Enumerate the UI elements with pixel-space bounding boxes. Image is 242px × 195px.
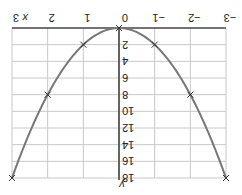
x-axis-label: x xyxy=(22,12,29,24)
y-tick-label: 10 xyxy=(122,105,134,117)
y-tick-label: 2 xyxy=(122,39,128,51)
y-tick-label: 16 xyxy=(122,155,134,167)
y-tick-label: 6 xyxy=(122,72,128,84)
y-tick-label: 12 xyxy=(122,122,134,134)
x-tick-label: 0 xyxy=(122,12,128,24)
y-axis-label: y xyxy=(118,179,126,191)
x-tick-label: −3 xyxy=(224,12,237,24)
parabola-chart: −3−2−1012324681012141618xy xyxy=(0,0,242,195)
chart-canvas: −3−2−1012324681012141618xy xyxy=(0,0,242,195)
y-tick-label: 4 xyxy=(122,55,128,67)
x-tick-label: 1 xyxy=(84,12,90,24)
x-tick-label: 3 xyxy=(13,12,19,24)
y-tick-label: 8 xyxy=(122,89,128,101)
x-tick-label: 2 xyxy=(49,12,55,24)
x-tick-label: −2 xyxy=(188,12,201,24)
tick-labels: −3−2−1012324681012141618xy xyxy=(13,12,236,191)
y-tick-label: 14 xyxy=(122,139,134,151)
axes xyxy=(12,28,226,180)
x-tick-label: −1 xyxy=(152,12,165,24)
